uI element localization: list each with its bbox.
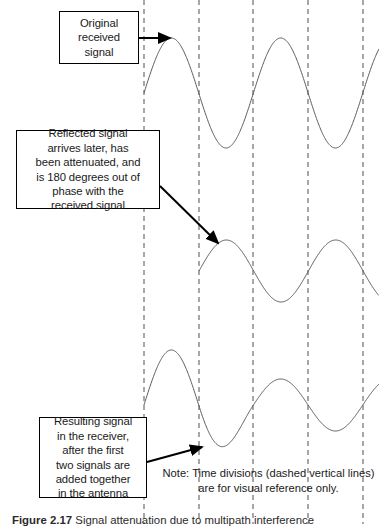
waveform-group: [144, 38, 379, 447]
figure-caption: Figure 2.17 Signal attenuation due to mu…: [12, 513, 379, 527]
waveform-reflected-signal: [199, 240, 379, 302]
callout-arrows: [139, 38, 218, 462]
callout-reflected-signal: Reflected signal arrives later, has been…: [16, 130, 160, 209]
waveform-original-received-signal: [144, 38, 379, 148]
callout-original-signal: Original received signal: [59, 11, 139, 64]
callout-reflected-text: Reflected signal arrives later, has been…: [33, 126, 144, 212]
time-division-gridlines: [144, 0, 363, 524]
resulting-arrow: [147, 447, 202, 462]
time-division-note: Note: Time divisions (dashed vertical li…: [158, 466, 379, 495]
callout-resulting-text: Resulting signal in the receiver, after …: [51, 414, 135, 500]
reflected-arrow: [160, 186, 218, 243]
waveform-resulting-signal-in-receiver: [144, 350, 379, 447]
callout-resulting-signal: Resulting signal in the receiver, after …: [39, 417, 147, 498]
figure-caption-label: Figure 2.17: [12, 514, 72, 526]
figure-caption-text: Signal attenuation due to multipath inte…: [75, 514, 314, 526]
callout-original-text: Original received signal: [75, 16, 123, 59]
